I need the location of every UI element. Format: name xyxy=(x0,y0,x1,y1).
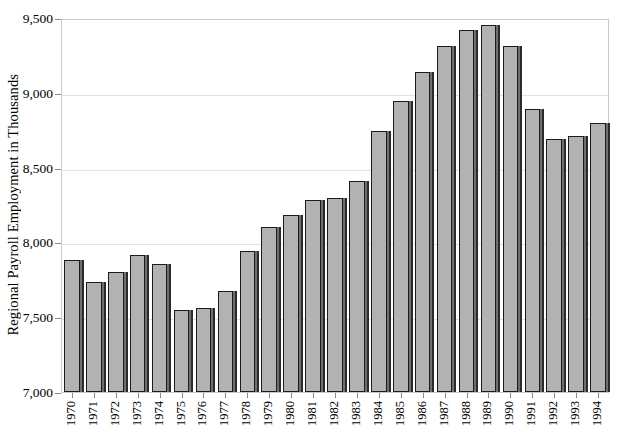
x-axis-tick-mark xyxy=(554,393,555,398)
bar-1971 xyxy=(86,282,104,392)
x-axis-tick-mark xyxy=(203,393,204,398)
x-axis-tick-label-1993: 1993 xyxy=(569,401,582,426)
x-axis-tick-label-1979: 1979 xyxy=(262,401,275,426)
x-axis-ticks: 1970197119721973197419751976197719781979… xyxy=(61,393,609,445)
x-axis-tick-mark xyxy=(401,393,402,398)
bar-1983 xyxy=(349,181,367,392)
x-axis-tick-label-1983: 1983 xyxy=(350,401,363,426)
bar-1993 xyxy=(568,136,586,392)
x-axis-tick-mark xyxy=(379,393,380,398)
y-axis-tick-label: 9,500 xyxy=(23,12,53,26)
bar-1991 xyxy=(525,109,543,392)
y-axis-tick-label: 8,500 xyxy=(23,162,53,176)
bar-1978 xyxy=(240,251,258,392)
x-axis-tick-mark xyxy=(598,393,599,398)
x-axis-tick-mark xyxy=(445,393,446,398)
bar-1980 xyxy=(283,215,301,392)
bar-1994 xyxy=(590,123,608,392)
x-axis-tick-label-1977: 1977 xyxy=(218,401,231,426)
bar-1987 xyxy=(437,46,455,392)
x-axis-tick-mark xyxy=(532,393,533,398)
x-axis-tick-label-1990: 1990 xyxy=(503,401,516,426)
x-axis-tick-label-1975: 1975 xyxy=(175,401,188,426)
y-axis-tick-label: 9,000 xyxy=(23,87,53,101)
x-axis-tick-mark xyxy=(138,393,139,398)
plot-area xyxy=(61,19,609,393)
x-axis-tick-label-1981: 1981 xyxy=(306,401,319,426)
y-axis-tick-label: 7,000 xyxy=(23,386,53,400)
x-axis-tick-mark xyxy=(225,393,226,398)
x-axis-tick-mark xyxy=(313,393,314,398)
x-axis-tick-mark xyxy=(335,393,336,398)
bar-1988 xyxy=(459,30,477,392)
x-axis-tick-label-1978: 1978 xyxy=(240,401,253,426)
x-axis-tick-label-1984: 1984 xyxy=(372,401,385,426)
y-axis-tick-label: 8,000 xyxy=(23,237,53,251)
x-axis-tick-label-1986: 1986 xyxy=(416,401,429,426)
x-axis-tick-mark xyxy=(269,393,270,398)
x-axis-tick-label-1992: 1992 xyxy=(547,401,560,426)
bar-1977 xyxy=(218,291,236,392)
bar-1970 xyxy=(64,260,82,392)
bar-1979 xyxy=(261,227,279,392)
x-axis-tick-label-1970: 1970 xyxy=(65,401,78,426)
bar-1973 xyxy=(130,255,148,392)
x-axis-tick-mark xyxy=(94,393,95,398)
x-axis-tick-mark xyxy=(576,393,577,398)
x-axis-tick-label-1972: 1972 xyxy=(109,401,122,426)
x-axis-tick-label-1988: 1988 xyxy=(460,401,473,426)
x-axis-tick-label-1985: 1985 xyxy=(394,401,407,426)
bar-1972 xyxy=(108,272,126,392)
x-axis-tick-mark xyxy=(182,393,183,398)
x-axis-tick-label-1982: 1982 xyxy=(328,401,341,426)
bar-1992 xyxy=(546,139,564,392)
x-axis-tick-label-1989: 1989 xyxy=(481,401,494,426)
bar-1981 xyxy=(305,200,323,392)
x-axis-tick-mark xyxy=(488,393,489,398)
x-axis-tick-label-1976: 1976 xyxy=(196,401,209,426)
y-axis-tick-label: 7,500 xyxy=(23,311,53,325)
x-axis-tick-mark xyxy=(160,393,161,398)
x-axis-tick-mark xyxy=(423,393,424,398)
x-axis-tick-label-1971: 1971 xyxy=(87,401,100,426)
x-axis-tick-label-1980: 1980 xyxy=(284,401,297,426)
bar-1974 xyxy=(152,264,170,392)
bar-chart-figure: Regional Payroll Employment in Thousands… xyxy=(0,0,617,445)
x-axis-tick-mark xyxy=(291,393,292,398)
x-axis-tick-mark xyxy=(467,393,468,398)
bar-1976 xyxy=(196,308,214,392)
bar-1986 xyxy=(415,72,433,392)
x-axis-tick-label-1994: 1994 xyxy=(591,401,604,426)
bar-1989 xyxy=(481,25,499,392)
bar-1984 xyxy=(371,131,389,392)
bar-1975 xyxy=(174,310,192,392)
bar-1990 xyxy=(503,46,521,392)
x-axis-tick-mark xyxy=(247,393,248,398)
bar-1982 xyxy=(327,198,345,392)
x-axis-tick-label-1974: 1974 xyxy=(153,401,166,426)
x-axis-tick-mark xyxy=(116,393,117,398)
x-axis-tick-mark xyxy=(357,393,358,398)
x-axis-tick-label-1987: 1987 xyxy=(438,401,451,426)
y-axis-ticks: 7,0007,5008,0008,5009,0009,500 xyxy=(0,0,61,445)
x-axis-tick-label-1991: 1991 xyxy=(525,401,538,426)
x-axis-tick-mark xyxy=(510,393,511,398)
gridline xyxy=(62,95,608,96)
bar-1985 xyxy=(393,101,411,392)
x-axis-tick-label-1973: 1973 xyxy=(131,401,144,426)
x-axis-tick-mark xyxy=(72,393,73,398)
